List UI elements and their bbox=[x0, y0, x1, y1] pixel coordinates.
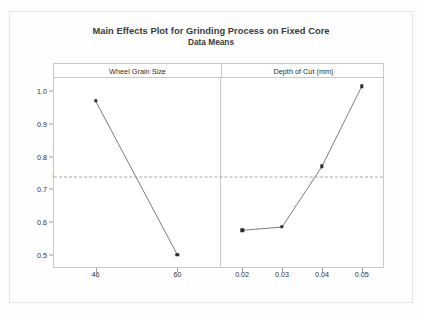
y-tick-label: 0.7 bbox=[7, 185, 53, 194]
reference-line bbox=[54, 176, 383, 177]
page-title: Main Effects Plot for Grinding Process o… bbox=[0, 26, 422, 37]
y-tick-label: 0.6 bbox=[7, 218, 53, 227]
y-tick-label: 1.0 bbox=[7, 87, 53, 96]
plot-area: Ra (μm) Wheel Grain Size Depth of Cut (m… bbox=[53, 63, 384, 268]
panel-header-band: Wheel Grain Size Depth of Cut (mm) bbox=[53, 63, 384, 78]
panel-header-depth-of-cut: Depth of Cut (mm) bbox=[221, 64, 385, 79]
x-tick-label: 0.04 bbox=[315, 270, 329, 279]
y-tick-label: 0.5 bbox=[7, 250, 53, 259]
x-tick-label: 0.03 bbox=[275, 270, 289, 279]
panel-body bbox=[53, 78, 384, 268]
title-block: Main Effects Plot for Grinding Process o… bbox=[0, 26, 422, 48]
y-tick-label: 0.9 bbox=[7, 119, 53, 128]
y-tick-mark bbox=[49, 254, 53, 255]
chart-subtitle: Data Means bbox=[0, 38, 422, 48]
y-tick-mark bbox=[49, 156, 53, 157]
chart-page: Main Effects Plot for Grinding Process o… bbox=[0, 0, 422, 313]
panel-divider bbox=[220, 78, 221, 268]
x-tick-label: 60 bbox=[173, 270, 181, 279]
panel-header-wheel-grain-size: Wheel Grain Size bbox=[54, 64, 221, 79]
y-tick-mark bbox=[49, 123, 53, 124]
y-tick-mark bbox=[49, 222, 53, 223]
y-tick-mark bbox=[49, 91, 53, 92]
x-tick-label: 0.02 bbox=[235, 270, 249, 279]
y-tick-label: 0.8 bbox=[7, 152, 53, 161]
x-tick-label: 0.05 bbox=[355, 270, 369, 279]
y-tick-mark bbox=[49, 189, 53, 190]
x-tick-label: 46 bbox=[92, 270, 100, 279]
